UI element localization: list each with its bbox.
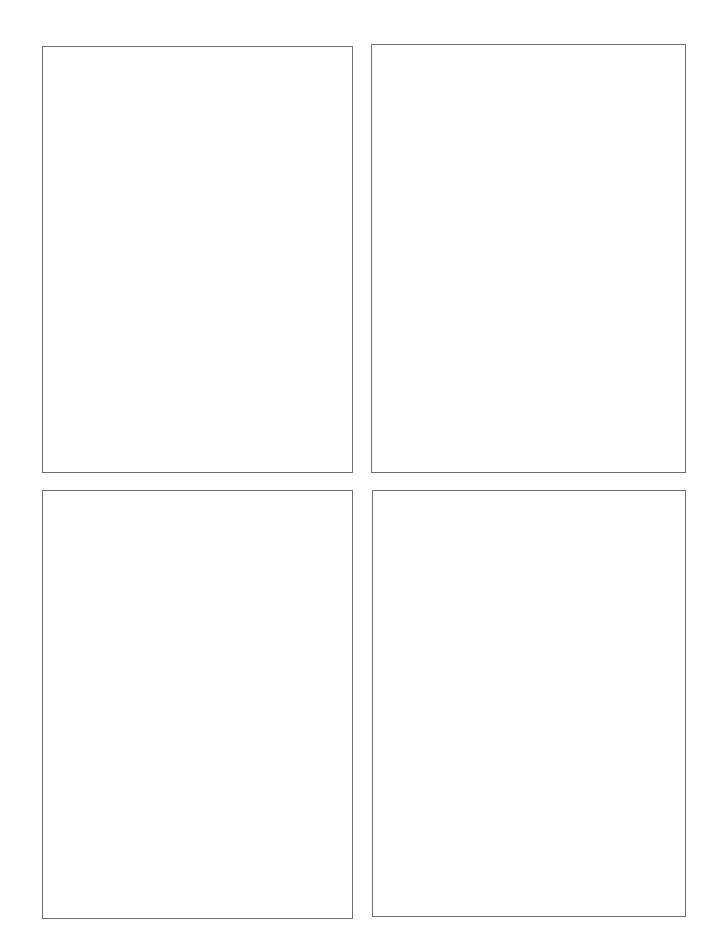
panel-bottom-right <box>372 490 686 917</box>
panel-top-left <box>42 46 353 473</box>
panel-top-right <box>371 44 686 473</box>
panel-bottom-left <box>42 490 353 919</box>
